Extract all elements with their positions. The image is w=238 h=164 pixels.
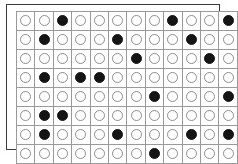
grid-cell[interactable]	[127, 107, 145, 126]
grid-cell[interactable]	[219, 126, 226, 145]
grid-cell[interactable]	[109, 88, 127, 107]
grid-cell[interactable]	[219, 50, 226, 69]
grid-cell[interactable]	[35, 69, 53, 88]
grid-cell[interactable]	[182, 50, 200, 69]
grid-cell[interactable]	[53, 126, 71, 145]
empty-circle-icon	[57, 72, 68, 83]
grid-cell[interactable]	[219, 12, 226, 31]
grid-cell[interactable]	[17, 88, 35, 107]
grid-cell[interactable]	[164, 69, 182, 88]
grid-cell[interactable]	[72, 88, 90, 107]
grid-cell[interactable]	[201, 88, 219, 107]
grid-cell[interactable]	[53, 50, 71, 69]
grid-cell[interactable]	[145, 145, 163, 155]
grid-cell[interactable]	[53, 145, 71, 155]
empty-circle-icon	[204, 129, 215, 140]
grid-cell[interactable]	[219, 107, 226, 126]
grid-cell[interactable]	[90, 12, 108, 31]
grid-cell[interactable]	[201, 12, 219, 31]
grid-cell[interactable]	[127, 126, 145, 145]
grid-cell[interactable]	[182, 126, 200, 145]
grid-cell[interactable]	[90, 31, 108, 50]
grid-cell[interactable]	[182, 69, 200, 88]
grid-cell[interactable]	[109, 145, 127, 155]
grid-cell[interactable]	[109, 126, 127, 145]
grid-cell[interactable]	[72, 145, 90, 155]
grid-cell[interactable]	[145, 69, 163, 88]
grid-cell[interactable]	[53, 88, 71, 107]
grid-cell[interactable]	[127, 145, 145, 155]
grid-cell[interactable]	[17, 145, 35, 155]
grid-cell[interactable]	[145, 107, 163, 126]
grid-cell[interactable]	[53, 31, 71, 50]
grid-body	[17, 12, 227, 155]
grid-cell[interactable]	[145, 126, 163, 145]
empty-circle-icon	[131, 34, 142, 45]
grid-cell[interactable]	[182, 12, 200, 31]
grid-cell[interactable]	[164, 126, 182, 145]
grid-cell[interactable]	[53, 107, 71, 126]
grid-cell[interactable]	[145, 12, 163, 31]
grid-cell[interactable]	[17, 31, 35, 50]
grid-cell[interactable]	[127, 12, 145, 31]
grid-cell[interactable]	[201, 69, 219, 88]
grid-cell[interactable]	[219, 31, 226, 50]
grid-cell[interactable]	[90, 145, 108, 155]
grid-cell[interactable]	[127, 50, 145, 69]
grid-cell[interactable]	[90, 69, 108, 88]
grid-cell[interactable]	[164, 145, 182, 155]
grid-cell[interactable]	[145, 88, 163, 107]
grid-cell[interactable]	[35, 88, 53, 107]
grid-cell[interactable]	[109, 50, 127, 69]
grid-cell[interactable]	[201, 107, 219, 126]
grid-cell[interactable]	[35, 50, 53, 69]
grid-cell[interactable]	[90, 50, 108, 69]
grid-cell[interactable]	[201, 126, 219, 145]
grid-cell[interactable]	[109, 12, 127, 31]
grid-cell[interactable]	[219, 69, 226, 88]
grid-cell[interactable]	[17, 50, 35, 69]
grid-cell[interactable]	[182, 107, 200, 126]
grid-cell[interactable]	[90, 88, 108, 107]
grid-cell[interactable]	[219, 145, 226, 155]
grid-cell[interactable]	[145, 50, 163, 69]
grid-cell[interactable]	[182, 145, 200, 155]
grid-cell[interactable]	[35, 126, 53, 145]
grid-cell[interactable]	[182, 31, 200, 50]
grid-cell[interactable]	[17, 126, 35, 145]
grid-cell[interactable]	[17, 69, 35, 88]
grid-cell[interactable]	[127, 31, 145, 50]
grid-cell[interactable]	[201, 50, 219, 69]
grid-cell[interactable]	[201, 31, 219, 50]
grid-cell[interactable]	[17, 12, 35, 31]
grid-cell[interactable]	[109, 69, 127, 88]
grid-cell[interactable]	[35, 145, 53, 155]
grid-cell[interactable]	[53, 69, 71, 88]
grid-cell[interactable]	[127, 69, 145, 88]
grid-cell[interactable]	[90, 126, 108, 145]
grid-cell[interactable]	[164, 12, 182, 31]
grid-cell[interactable]	[164, 107, 182, 126]
grid-cell[interactable]	[72, 107, 90, 126]
grid-cell[interactable]	[35, 12, 53, 31]
grid-cell[interactable]	[219, 88, 226, 107]
grid-cell[interactable]	[90, 107, 108, 126]
grid-cell[interactable]	[53, 12, 71, 31]
grid-cell[interactable]	[109, 31, 127, 50]
grid-cell[interactable]	[35, 31, 53, 50]
grid-cell[interactable]	[145, 31, 163, 50]
grid-cell[interactable]	[164, 88, 182, 107]
grid-cell[interactable]	[109, 107, 127, 126]
grid-cell[interactable]	[164, 31, 182, 50]
grid-cell[interactable]	[35, 107, 53, 126]
grid-cell[interactable]	[127, 88, 145, 107]
grid-cell[interactable]	[72, 69, 90, 88]
grid-cell[interactable]	[72, 126, 90, 145]
grid-cell[interactable]	[17, 107, 35, 126]
grid-cell[interactable]	[182, 88, 200, 107]
grid-cell[interactable]	[72, 31, 90, 50]
grid-cell[interactable]	[164, 50, 182, 69]
grid-cell[interactable]	[201, 145, 219, 155]
grid-cell[interactable]	[72, 50, 90, 69]
grid-cell[interactable]	[72, 12, 90, 31]
